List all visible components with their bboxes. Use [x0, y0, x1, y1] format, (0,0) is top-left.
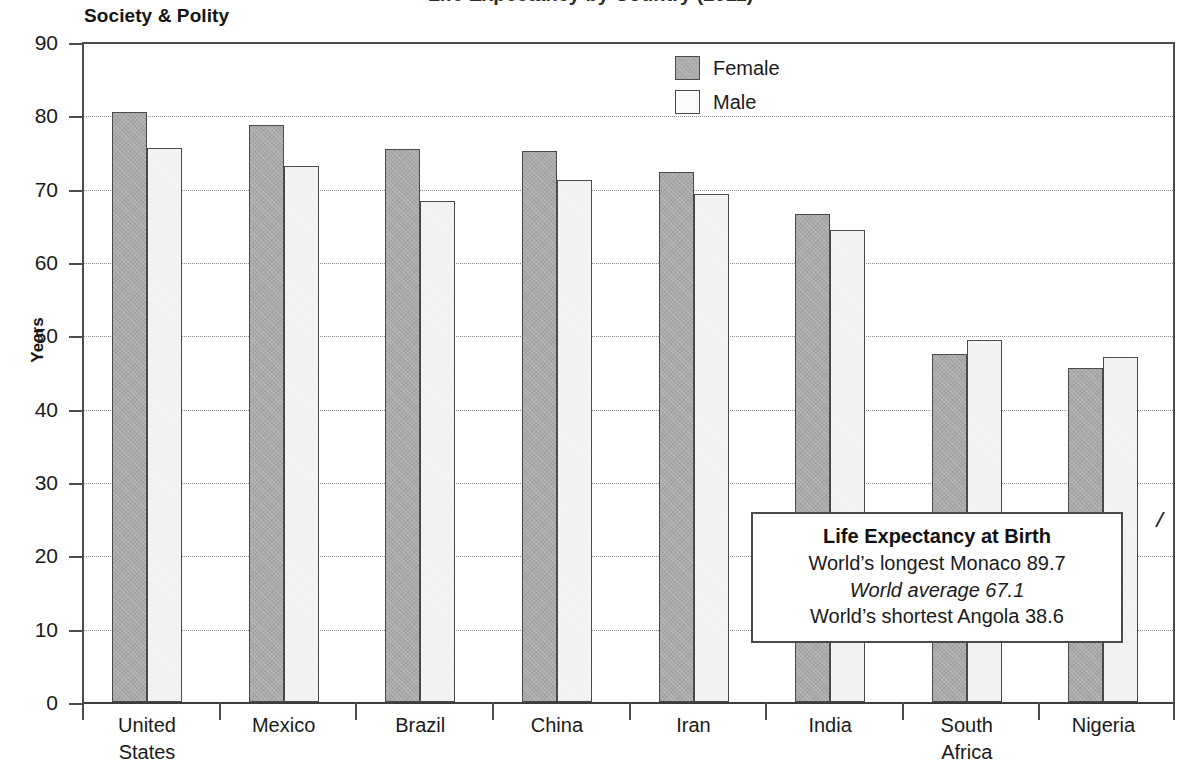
y-tick-mark-90 — [69, 43, 82, 45]
bar-female-5 — [659, 172, 694, 702]
y-tick-label-60: 60 — [0, 251, 58, 275]
bar-female-3 — [385, 149, 420, 702]
category-separator-2 — [355, 702, 357, 720]
callout-title: Life Expectancy at Birth — [759, 523, 1115, 550]
category-separator-4 — [629, 702, 631, 720]
x-axis-label-7: South Africa — [941, 712, 993, 765]
x-axis-label-8: Nigeria — [1072, 712, 1135, 739]
legend-label-female: Female — [713, 57, 780, 80]
y-tick-mark-70 — [69, 190, 82, 192]
callout-box: Life Expectancy at Birth World’s longest… — [751, 512, 1123, 643]
callout-shortest-line: World’s shortest Angola 38.6 — [759, 603, 1115, 630]
bar-male-5 — [694, 194, 729, 702]
bar-male-2 — [284, 166, 319, 702]
y-tick-mark-0 — [69, 703, 82, 705]
legend-swatch-female-icon — [675, 56, 700, 80]
y-tick-label-70: 70 — [0, 178, 58, 202]
callout-average-line: World average 67.1 — [759, 577, 1115, 604]
x-axis-label-6: India — [808, 712, 851, 739]
scan-artifact-mark — [1153, 512, 1173, 542]
y-tick-mark-20 — [69, 556, 82, 558]
y-tick-mark-30 — [69, 483, 82, 485]
gridline-70 — [84, 190, 1173, 191]
legend-label-male: Male — [713, 91, 756, 114]
gridline-50 — [84, 336, 1173, 337]
y-tick-label-10: 10 — [0, 618, 58, 642]
scan-artifact-stroke — [1155, 512, 1166, 527]
x-axis-label-2: Mexico — [252, 712, 315, 739]
plot-border-top — [82, 42, 1175, 44]
category-separator-edge-1 — [1173, 702, 1175, 720]
y-tick-mark-80 — [69, 116, 82, 118]
bar-female-2 — [249, 125, 284, 702]
x-axis-label-4: China — [531, 712, 583, 739]
gridline-30 — [84, 483, 1173, 484]
y-tick-label-50: 50 — [0, 324, 58, 348]
y-tick-mark-60 — [69, 263, 82, 265]
gridline-80 — [84, 116, 1173, 117]
y-tick-label-20: 20 — [0, 544, 58, 568]
x-axis-label-1: United States — [118, 712, 176, 765]
category-separator-6 — [902, 702, 904, 720]
y-tick-label-90: 90 — [0, 31, 58, 55]
bar-male-1 — [147, 148, 182, 702]
y-tick-label-30: 30 — [0, 471, 58, 495]
y-tick-label-80: 80 — [0, 104, 58, 128]
bar-female-1 — [112, 112, 147, 702]
x-axis-label-3: Brazil — [395, 712, 445, 739]
category-separator-3 — [492, 702, 494, 720]
chart-page: Life Expectancy by Country (2011) Societ… — [0, 0, 1181, 784]
callout-longest-line: World’s longest Monaco 89.7 — [759, 550, 1115, 577]
y-tick-mark-50 — [69, 336, 82, 338]
category-separator-1 — [219, 702, 221, 720]
legend-swatch-male-icon — [675, 90, 700, 114]
y-tick-label-0: 0 — [0, 691, 58, 715]
y-tick-mark-40 — [69, 410, 82, 412]
y-tick-label-40: 40 — [0, 398, 58, 422]
chart-legend: Female Male — [675, 51, 780, 119]
bar-female-4 — [522, 151, 557, 702]
legend-item-female: Female — [675, 51, 780, 85]
category-separator-5 — [765, 702, 767, 720]
category-separator-7 — [1038, 702, 1040, 720]
gridline-60 — [84, 263, 1173, 264]
plot-border-right — [1173, 43, 1175, 704]
bar-male-3 — [420, 201, 455, 702]
section-heading: Society & Polity — [84, 5, 229, 27]
y-tick-mark-10 — [69, 630, 82, 632]
x-axis-label-5: Iran — [676, 712, 710, 739]
bar-male-4 — [557, 180, 592, 702]
legend-item-male: Male — [675, 85, 780, 119]
gridline-40 — [84, 410, 1173, 411]
category-separator-edge-0 — [82, 702, 84, 720]
y-axis-line — [82, 43, 84, 704]
